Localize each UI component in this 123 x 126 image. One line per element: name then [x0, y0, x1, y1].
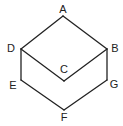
edge-ad [21, 16, 63, 49]
vertex-label-g: G [110, 78, 119, 90]
edge-dc [21, 49, 64, 81]
vertex-label-b: B [111, 42, 118, 54]
vertex-label-d: D [7, 42, 15, 54]
edge-ab [63, 16, 107, 49]
vertex-label-e: E [9, 79, 16, 91]
edge-cb [64, 49, 107, 81]
vertex-label-f: F [61, 111, 68, 123]
vertex-labels: A B C D E F G [7, 3, 119, 123]
cube-diagram: A B C D E F G [0, 0, 123, 126]
vertex-label-a: A [59, 3, 67, 15]
edge-ef [21, 80, 64, 110]
edge-fg [64, 80, 107, 110]
vertex-label-c: C [60, 63, 68, 75]
